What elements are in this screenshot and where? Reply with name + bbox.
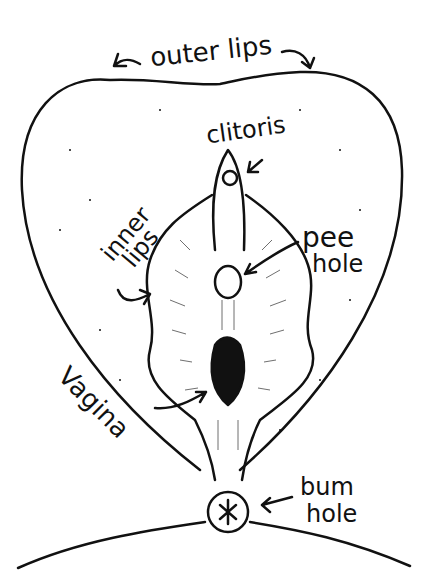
inner-lips-arrow [118,290,150,304]
buttocks-curve-left [18,522,205,568]
bum-hole-arrow [262,497,292,512]
vaginal-opening [212,338,244,406]
outer-lips-arrow-left [114,54,140,66]
label-pee-hole-line1: pee [302,224,354,252]
label-bum-hole-line2: hole [306,502,357,526]
pee-hole [215,266,241,298]
outer-lips-arrow-right [282,51,314,68]
label-pee-hole-line2: hole [312,252,363,276]
vagina-arrow [155,392,206,408]
label-bum-hole-line1: bum [300,475,354,499]
vulva-diagram: outer lips clitoris inner lips pee hole … [0,0,425,577]
buttocks-curve-right [250,522,410,566]
clitoris-arrow [248,160,262,172]
pee-hole-arrow [245,242,298,274]
diagram-drawing [0,0,425,577]
clitoral-hood [213,150,244,250]
